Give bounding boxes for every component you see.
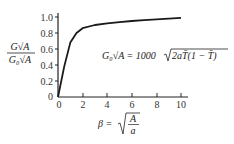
y-tick-label: 0	[48, 91, 53, 102]
x-tick-label: 0	[57, 99, 62, 110]
x-tick-label: 2	[81, 99, 86, 110]
y-tick-label: 1.0	[41, 12, 54, 23]
x-tick-label: 4	[105, 99, 110, 110]
x-tick-label: 10	[176, 99, 186, 110]
x-label-denominator: a	[131, 125, 136, 136]
equation-radicand: 2aT̄(1 − T̄)	[172, 50, 217, 62]
y-label-numerator: G√A	[11, 41, 31, 52]
y-axis-label: G√A G₀√A	[7, 41, 35, 65]
y-tick-label: 0.2	[41, 76, 54, 87]
y-tick-label: 0.8	[41, 28, 54, 39]
x-tick-label: 8	[155, 99, 160, 110]
x-tick-labels: 0 2 4 6 8 10	[57, 99, 187, 110]
y-label-denominator: G₀√A	[9, 54, 32, 65]
y-tick-label: 0.4	[41, 60, 54, 71]
x-tick-label: 6	[130, 99, 135, 110]
x-axis-label: β = A a	[97, 113, 140, 136]
y-tick-labels: 1.0 0.8 0.6 0.4 0.2 0	[41, 12, 54, 103]
chart: 1.0 0.8 0.6 0.4 0.2 0 0 2 4 6 8 10 G√A G…	[0, 0, 234, 144]
x-label-beta: β =	[97, 118, 112, 129]
x-label-numerator: A	[129, 113, 137, 124]
equation-left: G₀√A = 1000	[102, 50, 156, 61]
equation-annotation: G₀√A = 1000 2aT̄(1 − T̄)	[102, 49, 228, 62]
y-tick-label: 0.6	[41, 44, 54, 55]
